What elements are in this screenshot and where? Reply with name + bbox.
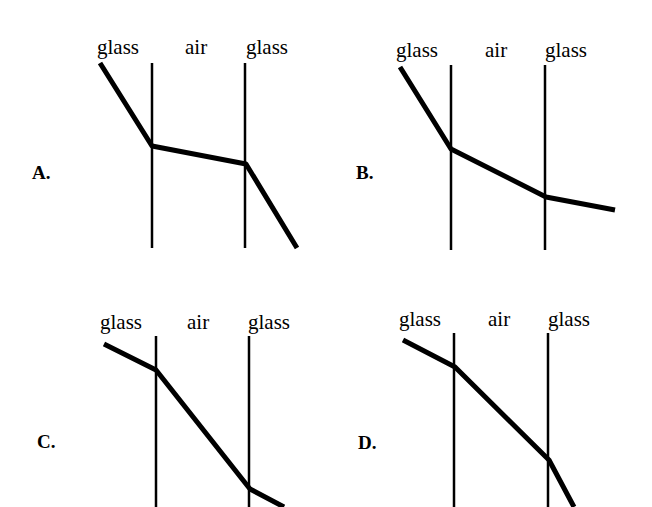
- medium-label-glass-left: glass: [399, 309, 441, 330]
- medium-label-air: air: [187, 312, 209, 333]
- light-ray: [100, 63, 297, 248]
- medium-label-air: air: [488, 309, 510, 330]
- medium-label-air: air: [185, 37, 207, 58]
- medium-label-glass-right: glass: [246, 37, 288, 58]
- medium-label-glass-right: glass: [548, 309, 590, 330]
- panel-d-graphics: [403, 333, 574, 507]
- option-letter: A.: [32, 163, 50, 182]
- panel-c-graphics: [104, 336, 284, 507]
- light-ray: [400, 67, 615, 210]
- medium-label-glass-right: glass: [545, 40, 587, 61]
- medium-label-glass-left: glass: [396, 40, 438, 61]
- medium-label-glass-right: glass: [248, 312, 290, 333]
- medium-label-glass-left: glass: [97, 37, 139, 58]
- panel-b-graphics: [400, 65, 615, 250]
- option-letter: B.: [356, 163, 373, 182]
- medium-label-glass-left: glass: [100, 312, 142, 333]
- option-letter: C.: [37, 432, 55, 451]
- medium-label-air: air: [485, 40, 507, 61]
- panel-a-graphics: [100, 63, 297, 248]
- light-ray: [104, 344, 284, 507]
- option-letter: D.: [358, 433, 376, 452]
- diagram-canvas: [0, 0, 652, 507]
